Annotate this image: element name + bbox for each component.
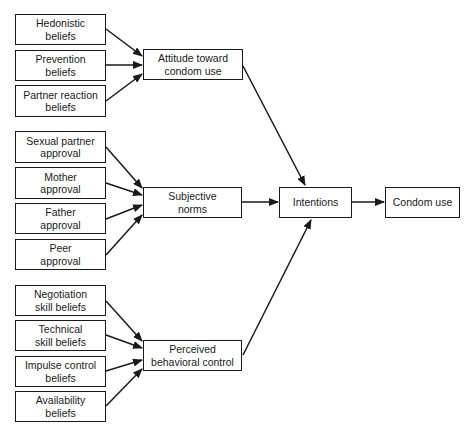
- node-mother-approval: Mother approval: [15, 167, 106, 199]
- node-perceived-behavioral-control: Perceived behavioral control: [143, 340, 242, 371]
- arrow-impulse-to-pbc: [106, 360, 142, 371]
- arrow-mother-to-subjective_norms: [106, 183, 142, 195]
- arrow-availability-to-pbc: [106, 369, 142, 406]
- node-partner-reaction-beliefs: Partner reaction beliefs: [15, 85, 106, 117]
- node-technical-skill-beliefs: Technical skill beliefs: [15, 320, 106, 351]
- arrow-hedonistic-to-attitude: [106, 29, 142, 56]
- node-prevention-beliefs: Prevention beliefs: [15, 50, 106, 81]
- arrow-negotiation-to-pbc: [106, 301, 142, 341]
- node-negotiation-skill-beliefs: Negotiation skill beliefs: [15, 285, 106, 316]
- arrow-technical-to-pbc: [106, 335, 142, 348]
- node-father-approval: Father approval: [15, 203, 106, 234]
- arrow-attitude-to-intentions: [243, 66, 305, 185]
- node-impulse-control-beliefs: Impulse control beliefs: [15, 356, 106, 387]
- arrow-father-to-subjective_norms: [106, 205, 142, 219]
- node-intentions: Intentions: [279, 187, 352, 218]
- arrow-partner_reaction-to-attitude: [106, 74, 142, 101]
- node-condom-use: Condom use: [385, 187, 460, 218]
- node-attitude-toward-condom-use: Attitude toward condom use: [143, 49, 243, 80]
- node-subjective-norms: Subjective norms: [143, 187, 242, 218]
- node-peer-approval: Peer approval: [15, 239, 106, 270]
- node-availability-beliefs: Availability beliefs: [15, 391, 106, 422]
- arrow-peer-to-subjective_norms: [106, 215, 142, 255]
- arrow-sexual_partner-to-subjective_norms: [106, 147, 142, 188]
- node-hedonistic-beliefs: Hedonistic beliefs: [15, 14, 106, 45]
- arrow-pbc-to-intentions: [243, 220, 311, 355]
- node-sexual-partner-approval: Sexual partner approval: [15, 131, 106, 163]
